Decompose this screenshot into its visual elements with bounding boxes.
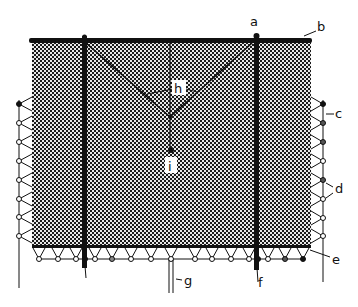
label-i: i <box>168 159 172 174</box>
left-pole <box>82 36 87 268</box>
center-weight <box>168 147 174 153</box>
d-leader-1 <box>326 183 333 187</box>
d-leader-2 <box>326 193 333 198</box>
label-h: h <box>174 81 182 96</box>
label-f: f <box>258 275 263 290</box>
net-diagram: h i <box>0 0 358 307</box>
left-pole-cap <box>82 35 87 40</box>
b-leader <box>304 31 316 36</box>
bottom-rings <box>33 248 309 262</box>
label-a: a <box>250 14 258 29</box>
top-rope <box>29 38 312 43</box>
label-d: d <box>335 181 343 196</box>
g-leader <box>176 279 182 280</box>
label-b: b <box>317 19 325 34</box>
label-e: e <box>332 252 340 267</box>
net-panel <box>32 41 311 247</box>
right-pole <box>254 34 259 270</box>
label-c: c <box>335 106 342 121</box>
v-apex <box>168 115 172 119</box>
bottom-rope <box>32 245 311 248</box>
label-g: g <box>184 273 192 288</box>
right-pole-cap <box>254 33 260 39</box>
e-leader <box>310 250 330 257</box>
